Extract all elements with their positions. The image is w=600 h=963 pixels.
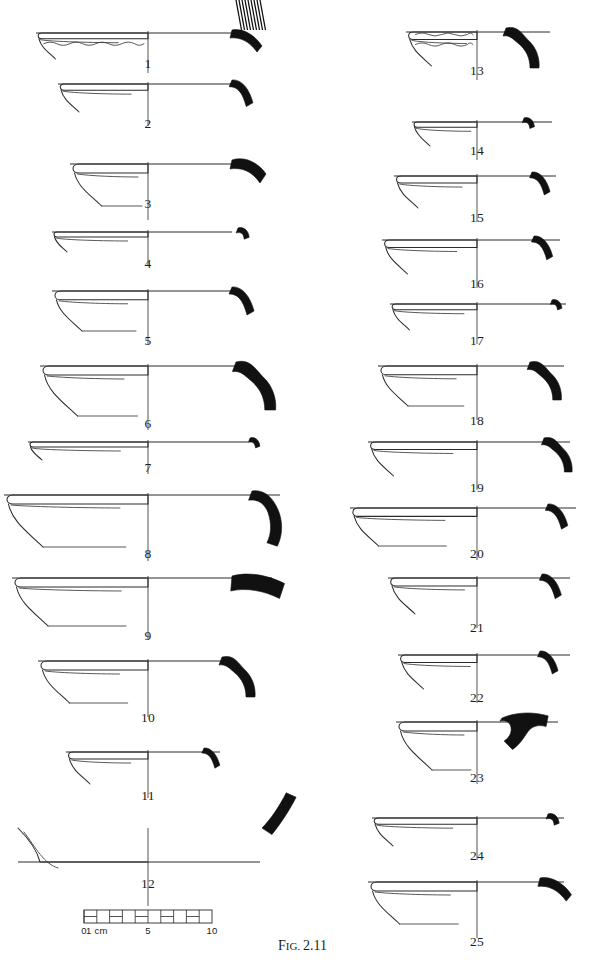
- figure-caption: FIG. 2.11: [278, 938, 327, 953]
- figure-plate: 1234567891011121314151617181920212223242…: [0, 0, 600, 963]
- vessel-number-label: 4: [145, 256, 152, 271]
- caption-number: 2.11: [303, 938, 327, 953]
- vessel-number-label: 13: [470, 63, 484, 78]
- plate-background: [0, 0, 600, 963]
- vessel-number-label: 15: [470, 210, 484, 225]
- vessel-number-label: 9: [145, 628, 152, 643]
- vessel-number-label: 10: [141, 710, 155, 725]
- vessel-number-label: 20: [470, 546, 484, 561]
- scale-bar-label: 10: [206, 925, 217, 936]
- vessel-number-label: 1: [145, 56, 152, 71]
- vessel-number-label: 22: [470, 690, 484, 705]
- vessel-number-label: 5: [145, 333, 152, 348]
- vessel-number-label: 25: [470, 934, 484, 949]
- vessel-number-label: 17: [470, 333, 484, 348]
- figure-caption-group: FIG. 2.11: [278, 938, 327, 953]
- vessel-number-label: 21: [470, 620, 484, 635]
- vessel-number-label: 8: [145, 546, 152, 561]
- vessel-number-label: 23: [470, 770, 484, 785]
- caption-prefix-initial: F: [278, 938, 286, 953]
- vessel-number-label: 2: [145, 116, 152, 131]
- scale-bar-label: 5: [145, 925, 151, 936]
- vessel-number-label: 7: [145, 460, 152, 475]
- vessel-number-label: 12: [141, 876, 155, 891]
- vessel-number-label: 11: [141, 788, 154, 803]
- pottery-plate-svg: 1234567891011121314151617181920212223242…: [0, 0, 600, 963]
- vessel-number-label: 16: [470, 276, 484, 291]
- vessel-number-label: 6: [145, 416, 152, 431]
- caption-prefix-rest: IG.: [286, 940, 303, 952]
- vessel-number-label: 24: [470, 848, 484, 863]
- vessel-number-label: 19: [470, 480, 484, 495]
- vessel-number-label: 14: [470, 143, 484, 158]
- vessel-number-label: 18: [470, 413, 484, 428]
- vessel-number-label: 3: [145, 196, 152, 211]
- scale-bar-label: 1 cm: [86, 925, 108, 936]
